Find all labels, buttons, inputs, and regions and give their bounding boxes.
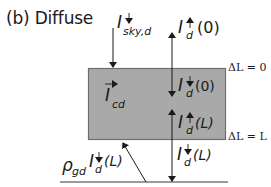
sky-diffuse-subscript: sky,d — [123, 26, 151, 37]
sky-diffuse-label: I — [117, 14, 122, 31]
reflect-label: I — [89, 153, 94, 170]
canopy-vector-subscript: cd — [112, 99, 125, 110]
reflect-coef-subscript: gd — [72, 166, 86, 177]
up-inside-arg: (L) — [195, 116, 214, 130]
layer-bottom-label: ΔL = L — [228, 131, 267, 142]
up-top-label: I — [178, 19, 183, 36]
down-below-label: I — [177, 146, 182, 163]
diffuse-radiation-diagram: (b) Diffuse I sky,d I d (0) I d (0) I cd… — [0, 0, 271, 187]
up-top-arg: (0) — [197, 20, 220, 36]
down-below-subscript: d — [184, 157, 191, 168]
reflect-arg: (L) — [104, 154, 123, 168]
down-inside-subscript: d — [186, 88, 193, 99]
down-inside-arg: (0) — [195, 79, 215, 93]
down-inside-label: I — [178, 77, 183, 94]
down-below-arg: (L) — [193, 148, 212, 162]
canopy-vector-label: I — [105, 87, 110, 104]
up-inside-label: I — [178, 114, 183, 131]
layer-top-label: ΔL = 0 — [228, 62, 266, 73]
up-inside-subscript: d — [186, 125, 193, 136]
ground-reflect-arrow — [123, 143, 146, 182]
diagram-title: (b) Diffuse — [6, 10, 93, 27]
reflect-subscript: d — [95, 164, 102, 175]
up-top-subscript: d — [186, 30, 193, 41]
